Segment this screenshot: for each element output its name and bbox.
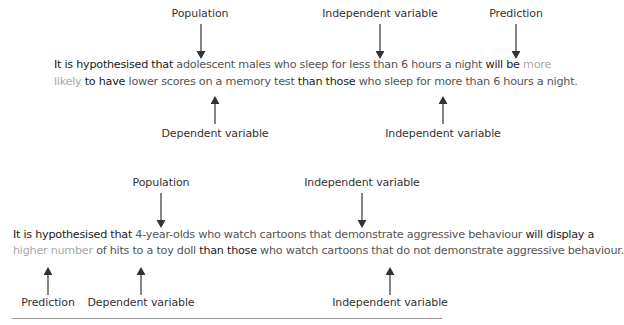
label-dependent-variable-2: Dependent variable bbox=[87, 296, 194, 309]
label-dependent-variable-1: Dependent variable bbox=[161, 127, 268, 140]
sentence-segment: than those bbox=[295, 75, 359, 88]
label-prediction-2: Prediction bbox=[21, 296, 75, 309]
arrow-up-dependent-variable-2 bbox=[137, 267, 146, 295]
prediction-phrase: likely bbox=[54, 75, 81, 88]
sentence-segment: will display a bbox=[522, 228, 594, 241]
arrow-up-independent-variable-1 bbox=[439, 96, 448, 124]
independent-variable-phrase: who sleep for less than 6 hours a night bbox=[271, 58, 483, 71]
independent-variable-phrase: who watch cartoons that demonstrate aggr… bbox=[195, 228, 522, 241]
divider-line bbox=[12, 318, 442, 319]
hypothesis-sentence-2-line-2: higher number of hits to a toy doll than… bbox=[13, 242, 624, 260]
sentence-segment: will be bbox=[482, 58, 523, 71]
prediction-phrase: more bbox=[523, 58, 551, 71]
dependent-variable-phrase: of hits to a toy doll bbox=[93, 244, 196, 257]
sentence-segment: than those bbox=[196, 244, 260, 257]
population-phrase: adolescent males bbox=[176, 58, 270, 71]
label-independent-variable-bottom-1: Independent variable bbox=[385, 127, 501, 140]
sentence-segment: It is hypothesised that bbox=[13, 228, 135, 241]
hypothesis-sentence-1-line-2: likely to have lower scores on a memory … bbox=[54, 73, 578, 91]
independent-variable-phrase: who sleep for more than 6 hours a night. bbox=[359, 75, 578, 88]
arrow-up-prediction-2 bbox=[44, 267, 53, 295]
dependent-variable-phrase: lower scores on a memory test bbox=[129, 75, 295, 88]
independent-variable-phrase: who watch cartoons that do not demonstra… bbox=[260, 244, 624, 257]
label-prediction-1: Prediction bbox=[489, 7, 543, 20]
label-independent-variable-top-1: Independent variable bbox=[322, 7, 438, 20]
population-phrase: 4-year-olds bbox=[135, 228, 195, 241]
hypothesis-sentence-1-line-1: It is hypothesised that adolescent males… bbox=[54, 56, 551, 74]
arrow-up-dependent-variable-1 bbox=[211, 96, 220, 124]
arrow-down-independent-variable-2 bbox=[358, 193, 367, 228]
label-population-1: Population bbox=[172, 7, 229, 20]
arrow-down-independent-variable-1 bbox=[376, 24, 385, 59]
arrow-down-prediction-1 bbox=[512, 24, 521, 59]
arrow-up-independent-variable-2 bbox=[386, 267, 395, 295]
sentence-segment: It is hypothesised that bbox=[54, 58, 176, 71]
arrow-down-population-2 bbox=[157, 193, 166, 228]
label-independent-variable-top-2: Independent variable bbox=[304, 176, 420, 189]
sentence-segment: to have bbox=[81, 75, 128, 88]
label-population-2: Population bbox=[133, 176, 190, 189]
prediction-phrase: higher number bbox=[13, 244, 93, 257]
arrow-down-population-1 bbox=[197, 24, 206, 59]
label-independent-variable-bottom-2: Independent variable bbox=[332, 296, 448, 309]
